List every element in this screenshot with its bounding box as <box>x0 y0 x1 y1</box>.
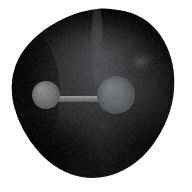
render-viewport <box>0 0 192 192</box>
molecule-isosurface-render <box>0 0 192 192</box>
